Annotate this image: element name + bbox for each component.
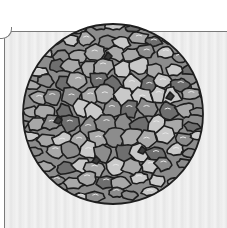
protein-subunit (52, 190, 70, 198)
capsid-sphere (9, 21, 219, 215)
protein-subunit (114, 204, 133, 213)
protein-subunit (134, 204, 151, 213)
protein-subunit (26, 147, 43, 156)
protein-subunit (203, 123, 218, 131)
protein-subunit (190, 131, 206, 140)
protein-subunit (182, 88, 201, 99)
protein-subunit (44, 36, 62, 45)
protein-subunit (190, 108, 207, 116)
protein-subunit (99, 206, 115, 215)
protein-subunit (149, 174, 165, 186)
protein-subunit (78, 204, 94, 213)
protein-subunit (44, 89, 61, 105)
protein-subunit (18, 165, 38, 175)
protein-subunit (9, 89, 25, 98)
protein-subunit (105, 21, 125, 30)
protein-subunit (201, 93, 219, 102)
virus-capsid-illustration (0, 0, 227, 228)
